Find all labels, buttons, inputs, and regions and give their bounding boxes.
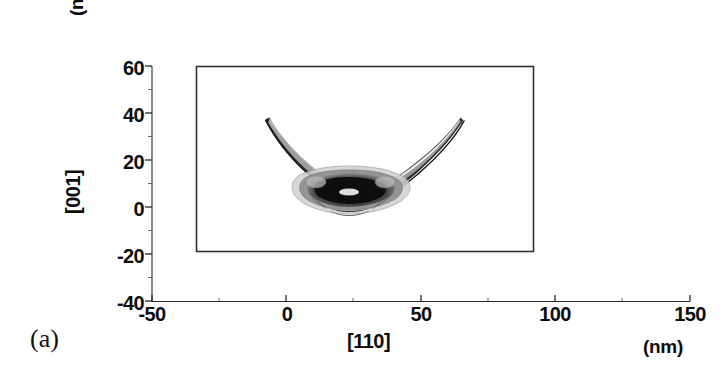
plot-canvas — [0, 0, 726, 381]
simulation-domain-box — [197, 67, 534, 252]
figure-panel: (nm) (nm) [001] [110] (a) 60 40 20 0 -20… — [0, 0, 726, 381]
core-light-inclusion — [339, 188, 359, 195]
x-axis-spine — [152, 295, 690, 302]
y-axis-spine — [145, 66, 152, 302]
dark-core-nucleus — [292, 166, 410, 216]
core-left-lobe — [306, 176, 326, 188]
core-right-lobe — [375, 176, 395, 188]
